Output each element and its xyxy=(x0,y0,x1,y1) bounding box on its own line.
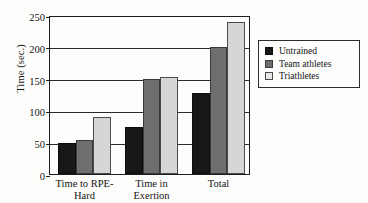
bar-chart-figure: Time (sec.) 050100150200250 Time to RPE-… xyxy=(0,0,368,203)
y-tick-label: 100 xyxy=(29,107,45,118)
y-tick-mark xyxy=(46,176,50,177)
bar-triathletes-time-to-rpe-hard xyxy=(93,117,111,174)
bar-team-athletes-time-to-rpe-hard xyxy=(76,140,94,174)
legend-item-untrained: Untrained xyxy=(265,45,354,58)
y-tick-mark xyxy=(46,144,50,145)
legend-label: Triathletes xyxy=(279,71,319,81)
y-tick-mark xyxy=(46,48,50,49)
legend-swatch-icon xyxy=(265,60,273,68)
y-tick-label: 0 xyxy=(40,171,45,182)
legend-label: Untrained xyxy=(279,46,317,56)
bar-untrained-time-in-exertion xyxy=(125,127,143,174)
bar-untrained-time-to-rpe-hard xyxy=(58,143,76,174)
x-category-label: Time in Exertion xyxy=(133,178,169,201)
y-tick-label: 50 xyxy=(35,139,46,150)
y-tick-label: 200 xyxy=(29,43,45,54)
x-category-label: Time to RPE- Hard xyxy=(56,178,114,201)
legend-swatch-icon xyxy=(265,47,273,55)
bar-triathletes-time-in-exertion xyxy=(160,77,178,174)
bar-team-athletes-time-in-exertion xyxy=(143,79,161,174)
y-tick-label: 250 xyxy=(29,12,45,23)
legend-item-triathletes: Triathletes xyxy=(265,70,354,83)
x-category-label: Total xyxy=(208,178,229,190)
y-tick-mark xyxy=(46,17,50,18)
y-tick-label: 150 xyxy=(29,75,45,86)
legend-swatch-icon xyxy=(265,72,273,80)
legend: UntrainedTeam athletesTriathletes xyxy=(258,40,360,88)
bar-triathletes-total xyxy=(227,22,245,174)
y-tick-mark xyxy=(46,80,50,81)
bar-team-athletes-total xyxy=(210,47,228,174)
bar-untrained-total xyxy=(192,93,210,174)
y-axis-title: Time (sec.) xyxy=(15,21,26,117)
plot-area: 050100150200250 Time to RPE- HardTime in… xyxy=(49,16,250,175)
y-tick-mark xyxy=(46,112,50,113)
legend-item-team-athletes: Team athletes xyxy=(265,58,354,71)
legend-label: Team athletes xyxy=(279,59,331,69)
